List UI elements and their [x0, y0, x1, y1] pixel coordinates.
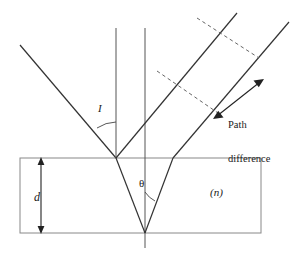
label-refraction-angle: θ — [139, 178, 144, 190]
label-refractive-index: (n) — [210, 187, 223, 199]
label-path-difference-line2: difference — [228, 153, 270, 164]
refracted-ray-down — [116, 158, 145, 233]
wavefront-dashed-lower — [157, 71, 218, 113]
incidence-angle-arc — [97, 122, 116, 128]
label-path-difference: Path difference — [228, 96, 270, 187]
thin-film-interference-diagram: I θ d (n) Path difference — [0, 0, 297, 256]
label-path-difference-line1: Path — [228, 119, 270, 130]
label-incidence-angle: I — [98, 103, 102, 115]
reflected-ray-first — [116, 13, 237, 158]
label-film-thickness: d — [34, 191, 40, 204]
refraction-angle-arc — [145, 192, 155, 201]
internally-reflected-ray-up — [145, 158, 173, 233]
